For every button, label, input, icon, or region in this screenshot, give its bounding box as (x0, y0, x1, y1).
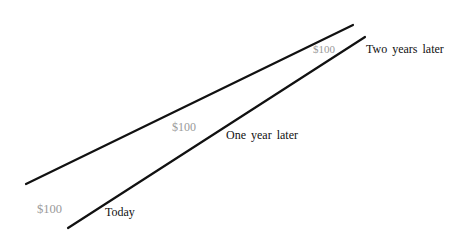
time-label-one-year: One year later (226, 128, 298, 142)
money-label-two-years: $100 (313, 42, 335, 56)
time-label-today: Today (105, 205, 135, 219)
money-label-today: $100 (37, 202, 62, 216)
money-label-one-year: $100 (172, 120, 196, 134)
diagram-canvas (0, 0, 474, 244)
upper-line (26, 25, 353, 184)
time-label-two-years: Two years later (366, 42, 444, 56)
lower-line (68, 37, 365, 228)
